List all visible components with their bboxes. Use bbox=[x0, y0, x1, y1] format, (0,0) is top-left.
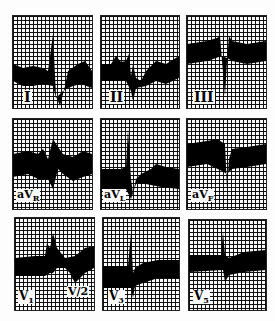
lead-label: III bbox=[193, 90, 215, 104]
lead-label: I bbox=[23, 90, 32, 104]
ecg-panel-lead-III: III bbox=[186, 15, 267, 109]
ecg-panel-lead-V5: V5 bbox=[188, 219, 267, 311]
ecg-panel-lead-I: I bbox=[12, 15, 93, 109]
lead-label: II bbox=[109, 90, 124, 104]
ecg-panel-lead-II: II bbox=[100, 15, 180, 109]
ecg-panel-lead-V3: V3 bbox=[102, 217, 180, 311]
lead-label: aVF bbox=[191, 189, 214, 202]
lead-label: aVL bbox=[103, 189, 126, 202]
lead-label: V3 bbox=[108, 290, 125, 304]
lead-label: V5 bbox=[193, 290, 210, 304]
ecg-panel-lead-aVF: aVF bbox=[186, 118, 267, 210]
lead-label: aVR bbox=[16, 189, 40, 202]
ecg-panel-lead-aVR: aVR bbox=[12, 118, 93, 210]
ecg-panel-lead-aVL: aVL bbox=[100, 118, 180, 210]
ecg-panel-lead-V1: V1 V/2 bbox=[14, 217, 95, 311]
lead-label: V1 bbox=[18, 290, 35, 304]
lead-label-extra: V/2 bbox=[67, 286, 89, 297]
